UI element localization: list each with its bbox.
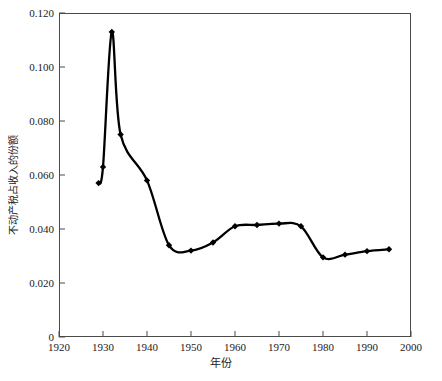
x-tick-label: 1950 xyxy=(180,341,202,353)
y-tick-label: 0.040 xyxy=(29,224,54,235)
y-tick-label: 0.020 xyxy=(29,278,54,289)
y-tick-label: 0.100 xyxy=(29,62,54,73)
x-tick-label: 1960 xyxy=(224,341,246,353)
x-tick-label: 1990 xyxy=(356,341,378,353)
x-tick-label: 2000 xyxy=(400,341,422,353)
y-tick-label: 0.120 xyxy=(29,8,54,19)
x-axis-tick-labels: 192019301940195019601970198019902000 xyxy=(0,341,442,357)
chart-container: 00.0200.0400.0600.0800.1000.120 19201930… xyxy=(0,0,442,381)
x-tick-label: 1970 xyxy=(268,341,290,353)
x-axis-title: 年份 xyxy=(0,357,442,370)
y-axis-title: 不动产税占收入的份额 xyxy=(8,135,20,235)
y-tick-label: 0.060 xyxy=(29,170,54,181)
x-tick-label: 1920 xyxy=(48,341,70,353)
y-axis-title-wrapper: 不动产税占收入的份额 xyxy=(6,120,22,250)
x-tick-label: 1940 xyxy=(136,341,158,353)
x-tick-label: 1930 xyxy=(92,341,114,353)
x-tick-label: 1980 xyxy=(312,341,334,353)
y-tick-label: 0.080 xyxy=(29,116,54,127)
plot-area xyxy=(59,13,411,337)
